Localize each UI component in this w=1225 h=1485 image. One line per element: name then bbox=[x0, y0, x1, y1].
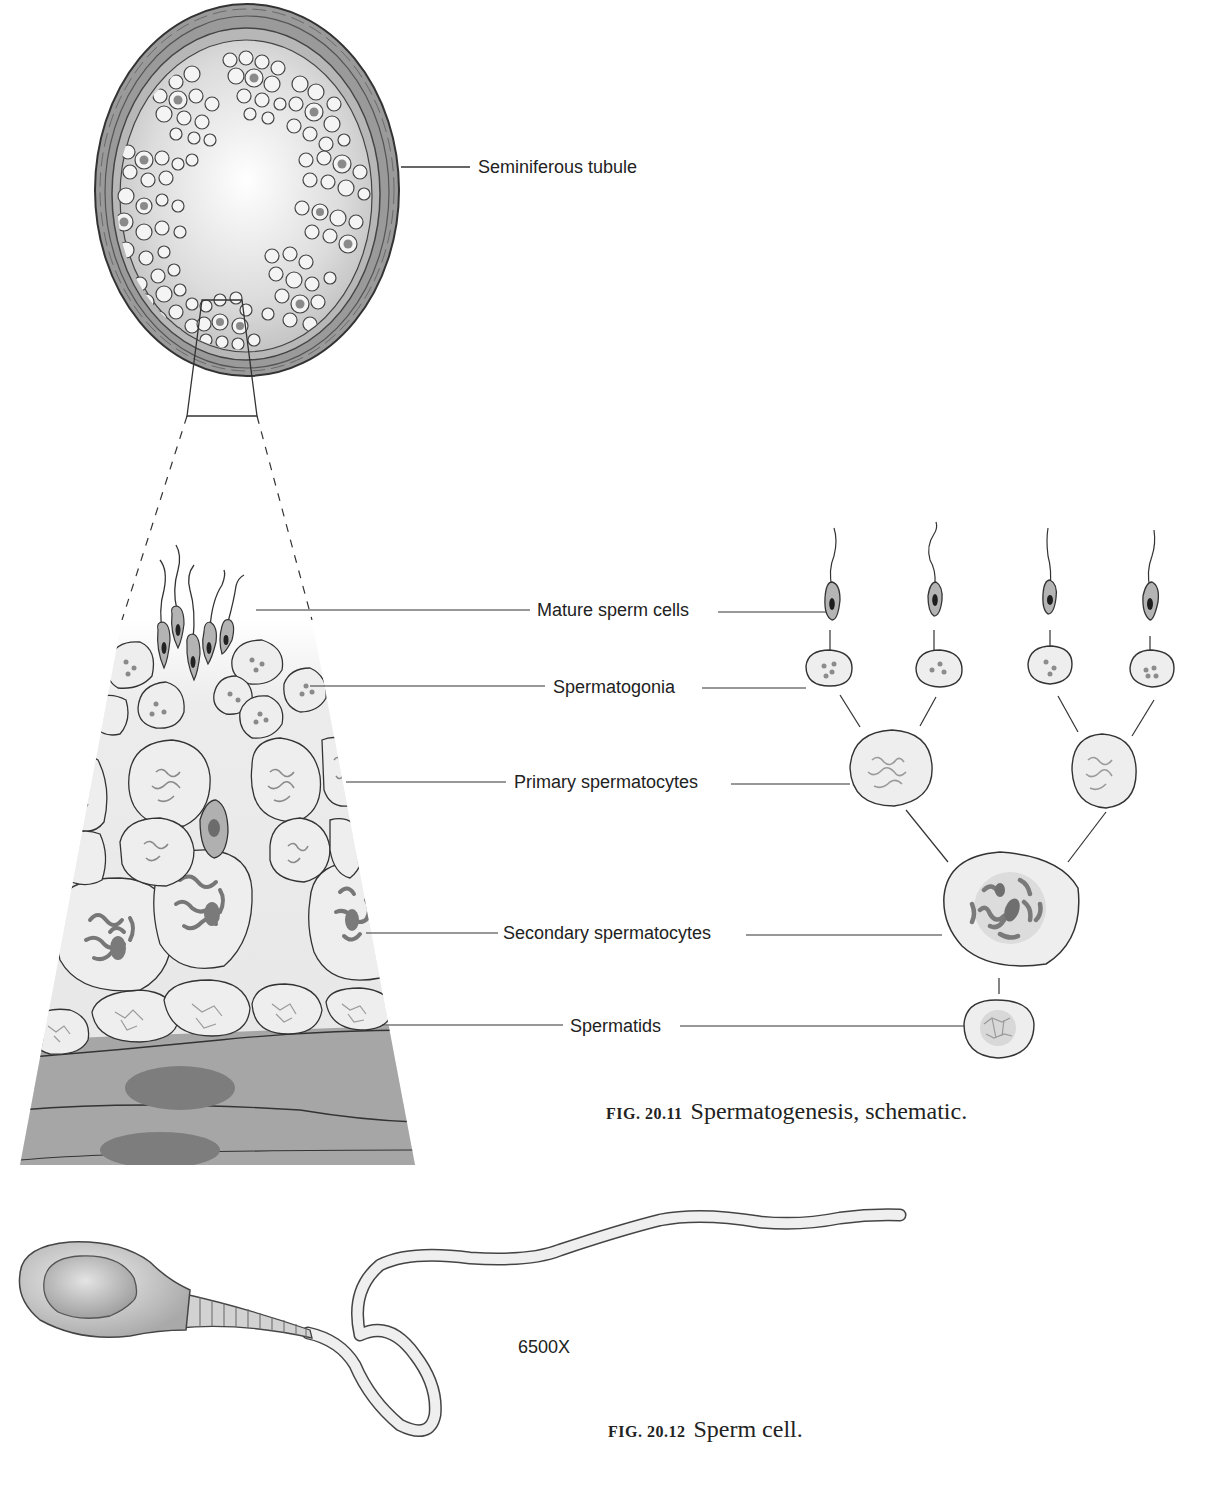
diagram-artwork bbox=[0, 0, 1225, 1485]
figure-caption-20-12: FIG. 20.12Sperm cell. bbox=[608, 1417, 803, 1441]
figure-page: Seminiferous tubule Mature sperm cells S… bbox=[0, 0, 1225, 1485]
label-spermatogonia: Spermatogonia bbox=[553, 678, 675, 696]
figure-title-20-11: Spermatogenesis, schematic. bbox=[691, 1098, 968, 1124]
figure-number-20-11: FIG. 20.11 bbox=[606, 1105, 683, 1122]
figure-caption-20-11: FIG. 20.11Spermatogenesis, schematic. bbox=[606, 1099, 967, 1123]
label-spermatids: Spermatids bbox=[570, 1017, 661, 1035]
seminiferous-tubule-crosssection bbox=[95, 4, 399, 416]
label-mature-sperm-cells: Mature sperm cells bbox=[537, 601, 689, 619]
label-seminiferous-tubule: Seminiferous tubule bbox=[478, 158, 637, 176]
magnification-label: 6500X bbox=[518, 1338, 570, 1356]
spermatogenesis-schematic bbox=[806, 522, 1174, 1058]
label-secondary-spermatocytes: Secondary spermatocytes bbox=[503, 924, 711, 942]
figure-number-20-12: FIG. 20.12 bbox=[608, 1423, 685, 1440]
label-primary-spermatocytes: Primary spermatocytes bbox=[514, 773, 698, 791]
sperm-cell-illustration bbox=[19, 1215, 900, 1431]
figure-title-20-12: Sperm cell. bbox=[693, 1416, 802, 1442]
epithelium-wedge bbox=[20, 545, 415, 1168]
